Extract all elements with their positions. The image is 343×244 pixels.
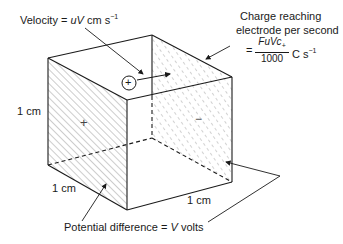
positive-sign: + xyxy=(80,116,88,129)
potential-label: Potential difference = V volts xyxy=(64,221,204,234)
ion-sign: + xyxy=(125,76,131,89)
side-length-bottom-right: 1 cm xyxy=(187,194,211,207)
charge-fraction: FuVc+ 1000 xyxy=(255,36,289,65)
velocity-label: Velocity = uV cm s−1 xyxy=(20,10,118,27)
charge-label-line1: Charge reaching xyxy=(240,10,321,23)
charge-pointer xyxy=(206,46,230,59)
side-length-bottom-left: 1 cm xyxy=(52,182,76,195)
negative-sign: − xyxy=(195,113,202,126)
velocity-pointer xyxy=(85,28,143,74)
charge-unit: C s−1 xyxy=(292,44,316,61)
side-length-left: 1 cm xyxy=(17,105,41,118)
charge-equals: = xyxy=(246,44,252,57)
